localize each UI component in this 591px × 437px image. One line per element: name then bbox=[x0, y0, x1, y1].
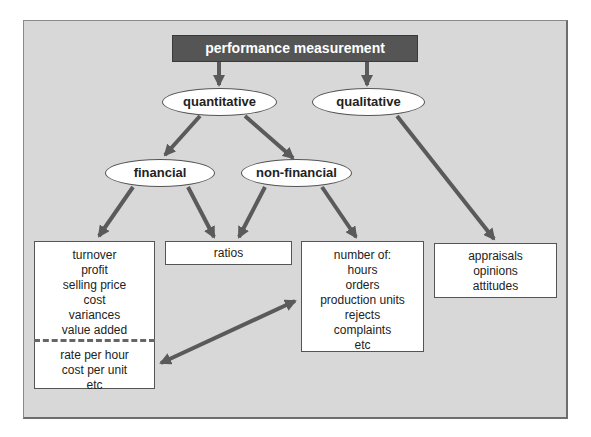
list-item: selling price bbox=[35, 278, 154, 293]
arrow-nonfinancial-to-measures bbox=[322, 187, 356, 237]
list-item: profit bbox=[35, 263, 154, 278]
node-financial: financial bbox=[105, 159, 215, 187]
arrow-financial-to-ratios bbox=[188, 187, 214, 237]
list-item: rate per hour bbox=[35, 348, 154, 363]
node-qualitative: qualitative bbox=[312, 88, 425, 116]
list-item: etc bbox=[302, 338, 423, 353]
arrow-quantitative-to-nonfinancial bbox=[245, 116, 293, 158]
arrow-qualitative-to-measures bbox=[397, 116, 494, 239]
list-item: attitudes bbox=[435, 279, 556, 294]
arrow-financial-to-measures bbox=[99, 187, 133, 236]
box-ratios: ratios bbox=[165, 241, 292, 265]
financial-rates-list: rate per hour cost per unit etc bbox=[35, 348, 154, 393]
box-financial-measures: turnover profit selling price cost varia… bbox=[34, 241, 155, 389]
list-item: appraisals bbox=[435, 249, 556, 264]
list-item: complaints bbox=[302, 323, 423, 338]
list-item: opinions bbox=[435, 264, 556, 279]
box-non-financial-measures: number of: hours orders production units… bbox=[301, 241, 424, 352]
double-arrow-link bbox=[161, 301, 295, 363]
list-item: production units bbox=[302, 293, 423, 308]
list-item: cost bbox=[35, 293, 154, 308]
title-performance-measurement: performance measurement bbox=[172, 35, 418, 62]
node-quantitative: quantitative bbox=[162, 88, 277, 116]
node-non-financial: non-financial bbox=[241, 159, 352, 187]
list-item: hours bbox=[302, 263, 423, 278]
list-item: rejects bbox=[302, 308, 423, 323]
arrow-nonfinancial-to-ratios bbox=[239, 187, 265, 237]
dashed-divider bbox=[34, 339, 155, 342]
list-item: orders bbox=[302, 278, 423, 293]
list-item: cost per unit bbox=[35, 363, 154, 378]
financial-measures-list: turnover profit selling price cost varia… bbox=[35, 248, 154, 338]
arrow-quantitative-to-financial bbox=[165, 116, 200, 155]
list-item: etc bbox=[35, 378, 154, 393]
list-item: turnover bbox=[35, 248, 154, 263]
box-qualitative-measures: appraisals opinions attitudes bbox=[434, 243, 557, 298]
list-item: value added bbox=[35, 323, 154, 338]
ratios-label: ratios bbox=[214, 246, 243, 260]
list-item: number of: bbox=[302, 248, 423, 263]
list-item: variances bbox=[35, 308, 154, 323]
